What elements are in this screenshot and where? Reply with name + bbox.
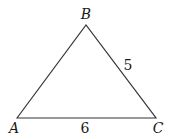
triangle-diagram: A B C 5 6 [0,0,175,139]
vertex-label-a: A [7,120,19,136]
side-label-bc: 5 [124,57,133,73]
vertex-label-b: B [80,6,91,22]
side-label-ac: 6 [81,120,90,136]
triangle-abc [17,25,156,118]
vertex-label-c: C [153,120,164,136]
